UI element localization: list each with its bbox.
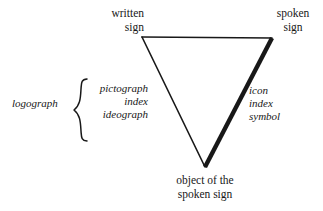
object-label-line-1: object of the xyxy=(150,174,260,188)
written-sign-line-1: written xyxy=(78,7,144,21)
logograph-term-0: pictograph xyxy=(86,82,148,95)
peircean-terms-list: icon index symbol xyxy=(249,84,309,123)
top-edge-line xyxy=(142,37,272,38)
vertex-label-object-of-the-spoken-sign: object of the spoken sign xyxy=(150,174,260,201)
object-label-line-2: spoken sign xyxy=(150,188,260,202)
peirce-term-0: icon xyxy=(249,84,309,97)
peirce-term-2: symbol xyxy=(249,110,309,123)
spoken-sign-line-2: sign xyxy=(264,21,322,35)
vertex-label-spoken-sign: spoken sign xyxy=(264,7,322,34)
logograph-terms-list: pictograph index ideograph xyxy=(86,82,148,121)
spoken-sign-line-1: spoken xyxy=(264,7,322,21)
vertex-label-written-sign: written sign xyxy=(78,7,144,34)
semiotic-triangle-diagram: written sign spoken sign object of the s… xyxy=(0,0,323,211)
logograph-term-1: index xyxy=(86,95,148,108)
left-edge-line xyxy=(142,37,205,167)
peirce-term-1: index xyxy=(249,97,309,110)
logograph-term-2: ideograph xyxy=(86,108,148,121)
logograph-category-label: logograph xyxy=(12,97,72,110)
written-sign-line-2: sign xyxy=(78,21,144,35)
